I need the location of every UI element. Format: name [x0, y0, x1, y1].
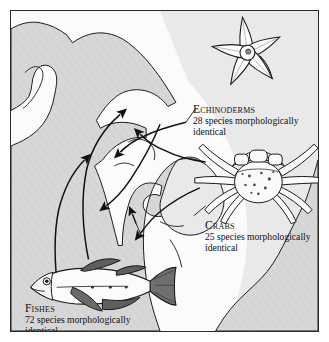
- crabs-detail: 25 species morphologically identical: [205, 232, 311, 253]
- figure-root: Echinoderms 28 species morphologically i…: [0, 0, 329, 342]
- echinoderms-line-1: 28 species morphologically: [193, 116, 299, 127]
- callout-echinoderms: Echinoderms 28 species morphologically i…: [193, 103, 299, 137]
- callout-crabs: Crabs 25 species morphologically identic…: [205, 219, 311, 253]
- figure-frame: Echinoderms 28 species morphologically i…: [10, 10, 319, 332]
- map-illustration: [11, 11, 318, 331]
- crabs-line-2: identical: [205, 243, 311, 254]
- echinoderms-detail: 28 species morphologically identical: [193, 116, 299, 137]
- echinoderms-line-2: identical: [193, 127, 299, 138]
- callout-fishes: Fishes 72 species morphologically identi…: [25, 302, 131, 332]
- fishes-line-1: 72 species morphologically: [25, 315, 131, 326]
- crabs-heading: Crabs: [205, 219, 311, 232]
- crabs-line-1: 25 species morphologically: [205, 232, 311, 243]
- fishes-detail: 72 species morphologically identical: [25, 315, 131, 332]
- echinoderms-heading: Echinoderms: [193, 103, 299, 116]
- fishes-line-2: identical: [25, 326, 131, 332]
- fishes-heading: Fishes: [25, 302, 131, 315]
